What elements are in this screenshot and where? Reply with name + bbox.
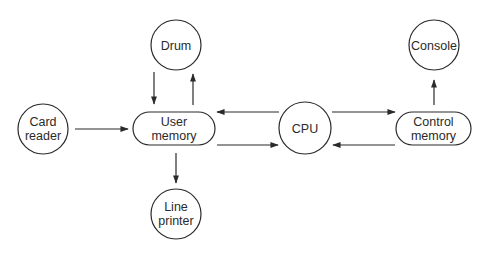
node-user-memory: User memory — [133, 112, 215, 145]
node-card-reader: Card reader — [18, 104, 68, 154]
console-label: Console — [411, 39, 457, 53]
card-reader-label-line1: Card — [29, 115, 56, 129]
node-control-memory: Control memory — [396, 112, 471, 145]
node-line-printer: Line printer — [151, 189, 201, 239]
edges — [75, 72, 434, 183]
user-memory-label-line2: memory — [151, 129, 197, 143]
drum-label: Drum — [161, 39, 192, 53]
node-console: Console — [409, 20, 459, 70]
control-memory-label-line2: memory — [411, 129, 457, 143]
control-memory-label-line1: Control — [413, 115, 453, 129]
node-cpu: CPU — [279, 102, 331, 154]
card-reader-label-line2: reader — [25, 129, 61, 143]
node-drum: Drum — [151, 20, 201, 70]
diagram-canvas: Drum Card reader User memory Line printe… — [0, 0, 487, 256]
user-memory-label-line1: User — [161, 115, 187, 129]
line-printer-label-line1: Line — [164, 200, 188, 214]
cpu-label: CPU — [292, 122, 318, 136]
line-printer-label-line2: printer — [158, 214, 193, 228]
